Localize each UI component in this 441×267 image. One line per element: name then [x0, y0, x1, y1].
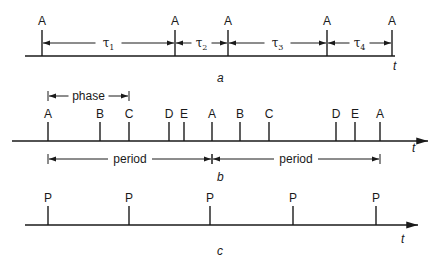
- phase-label: phase: [72, 89, 105, 103]
- caption-c: c: [217, 244, 223, 258]
- event-label-p: P: [372, 191, 380, 205]
- event-label-a: A: [38, 14, 46, 28]
- period-label: period: [279, 152, 312, 166]
- panel-a: AAAAA τ1τ2τ3τ4 t a: [25, 14, 397, 85]
- event-label-b: B: [236, 107, 244, 121]
- event-label-a: A: [44, 107, 52, 121]
- event-label-a: A: [208, 107, 216, 121]
- event-label-p: P: [44, 191, 52, 205]
- event-label-p: P: [125, 191, 133, 205]
- axis-label-t-b: t: [412, 141, 416, 155]
- event-label-c: C: [265, 107, 274, 121]
- event-label-b: B: [96, 107, 104, 121]
- event-label-p: P: [206, 191, 214, 205]
- event-label-e: E: [351, 107, 359, 121]
- timing-diagram: AAAAA τ1τ2τ3τ4 t a ABCDEABCDEA phase per…: [0, 0, 441, 267]
- event-label-d: D: [165, 107, 174, 121]
- interval-label-tau-4: τ4: [354, 36, 366, 52]
- event-label-a: A: [171, 14, 179, 28]
- caption-b: b: [217, 170, 224, 184]
- event-label-d: D: [332, 107, 341, 121]
- panel-b: ABCDEABCDEA phase periodperiod t b: [12, 89, 428, 184]
- axis-label-t-a: t: [393, 59, 397, 73]
- event-label-a: A: [323, 14, 331, 28]
- period-label: period: [113, 152, 146, 166]
- event-label-a: A: [388, 14, 396, 28]
- caption-a: a: [217, 71, 224, 85]
- event-label-p: P: [289, 191, 297, 205]
- panel-c: PPPPP t c: [25, 191, 418, 258]
- event-label-c: C: [125, 107, 134, 121]
- interval-label-tau-3: τ3: [272, 36, 284, 52]
- event-label-a: A: [224, 14, 232, 28]
- interval-label-tau-2: τ2: [196, 36, 208, 52]
- event-label-a: A: [376, 107, 384, 121]
- axis-label-t-c: t: [401, 232, 405, 246]
- event-label-e: E: [180, 107, 188, 121]
- interval-label-tau-1: τ1: [103, 36, 115, 52]
